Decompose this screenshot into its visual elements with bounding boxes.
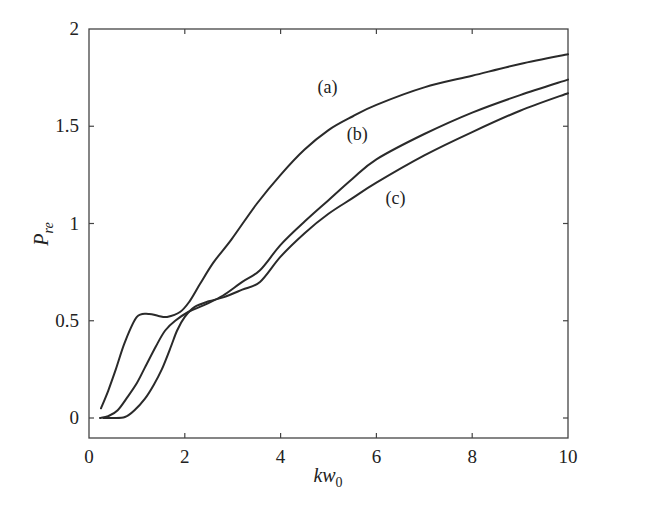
x-tick-label: 2 — [180, 446, 190, 467]
y-tick-label: 0 — [70, 407, 80, 428]
x-tick-label: 4 — [276, 446, 286, 467]
x-axis-label: kw0 — [313, 464, 342, 490]
series-label: (c) — [386, 188, 406, 209]
y-tick-label: 0.5 — [55, 310, 79, 331]
series-label: (a) — [318, 77, 338, 98]
series-curve — [101, 54, 568, 408]
data-series — [100, 54, 568, 418]
line-chart: 0246810 00.511.52 (a)(b)(c) kw0 Pre — [0, 0, 648, 518]
y-axis-label-subscript: re — [41, 222, 56, 233]
x-tick-label: 6 — [372, 446, 382, 467]
x-tick-label: 0 — [84, 446, 94, 467]
x-tick-label: 8 — [467, 446, 477, 467]
y-tick-labels: 00.511.52 — [55, 18, 79, 428]
x-tick-label: 10 — [559, 446, 578, 467]
y-tick-label: 1.5 — [55, 115, 79, 136]
series-labels: (a)(b)(c) — [318, 77, 406, 209]
series-curve — [103, 93, 568, 418]
y-tick-label: 1 — [70, 213, 80, 234]
y-tick-label: 2 — [70, 18, 80, 39]
y-axis-label: Pre — [30, 222, 56, 246]
series-label: (b) — [347, 124, 368, 145]
series-curve — [100, 80, 568, 418]
x-axis-label-subscript: 0 — [336, 475, 343, 490]
